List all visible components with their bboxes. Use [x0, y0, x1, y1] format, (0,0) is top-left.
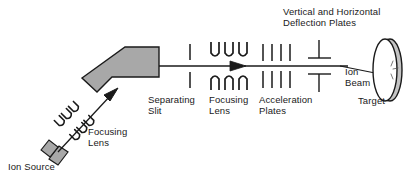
beam-arrowhead-1	[104, 88, 118, 101]
label-target: Target	[358, 95, 385, 106]
target	[373, 39, 402, 101]
deflection-plate-lower	[308, 74, 331, 92]
magnet-body	[82, 47, 159, 92]
target-face	[373, 39, 397, 101]
label-deflection-plates: Vertical and Horizontal Deflection Plate…	[283, 6, 380, 28]
label-focusing-lens-2: Focusing Lens	[209, 94, 248, 116]
acceleration-plates-lower	[263, 71, 290, 88]
focusing-lens-2-upper-arcs	[211, 42, 247, 56]
label-ion-source: Ion Source	[8, 161, 55, 172]
focusing-lens-1-upper-arcs	[54, 101, 79, 126]
label-focusing-lens-1: Focusing Lens	[88, 126, 127, 148]
diagram-canvas: Ion Source Focusing Lens Separating Slit…	[0, 0, 412, 186]
mass-analyzer-magnet	[82, 47, 159, 97]
deflection-plate-upper	[308, 40, 331, 58]
label-separating-slit: Separating Slit	[148, 94, 195, 116]
beam-arrowhead-2	[230, 61, 246, 71]
label-ion-beam: Ion Beam	[345, 66, 370, 88]
label-acceleration-plates: Acceleration Plates	[259, 94, 312, 116]
acceleration-plates-upper	[263, 44, 290, 61]
focusing-lens-2-lower-arcs	[211, 76, 247, 90]
